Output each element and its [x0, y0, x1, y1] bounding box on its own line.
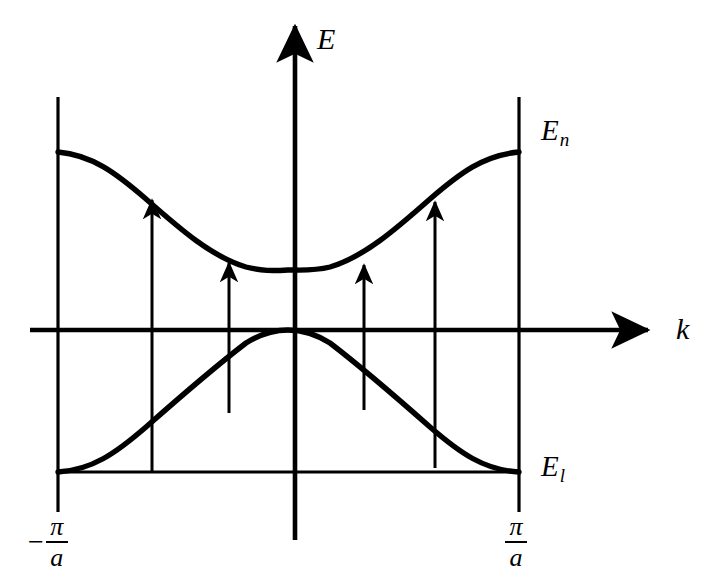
fraction-numerator: π — [506, 514, 525, 541]
right-zone-boundary-tick-label: π a — [505, 514, 527, 571]
lower-band-label-subscript: l — [560, 465, 565, 486]
band-structure-canvas — [0, 0, 717, 579]
fraction-numerator: π — [47, 514, 66, 541]
energy-axis-label: E — [317, 24, 335, 54]
upper-band-label-subscript: n — [560, 129, 570, 150]
left-zone-boundary-tick-label: − π a — [28, 514, 68, 571]
minus-sign: − — [28, 528, 44, 556]
fraction-denominator: a — [47, 543, 66, 571]
fraction-denominator: a — [507, 543, 526, 571]
lower-band-label-symbol: E — [541, 450, 559, 482]
upper-band-curve — [58, 152, 519, 271]
pi-over-a-fraction-right: π a — [505, 514, 527, 571]
brillouin-zone-boundaries — [58, 97, 519, 512]
band-structure-figure: E k En El − π a π a — [0, 0, 717, 579]
upper-band-label: En — [541, 116, 568, 145]
wavevector-axis-label: k — [676, 314, 689, 344]
lower-band-label: El — [541, 452, 564, 481]
lower-band-curve — [58, 330, 519, 472]
upper-band-label-symbol: E — [541, 114, 559, 146]
pi-over-a-fraction-left: π a — [46, 514, 68, 571]
